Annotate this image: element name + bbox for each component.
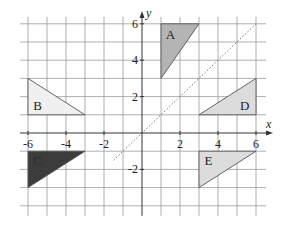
x-tick-label: 2 — [177, 137, 183, 151]
x-axis-label: x — [265, 117, 272, 131]
y-tick-label: -2 — [128, 162, 138, 176]
y-tick-label: 2 — [132, 90, 138, 104]
label-e: E — [205, 153, 213, 168]
y-axis-arrow-icon — [140, 11, 145, 18]
label-b: B — [33, 98, 42, 113]
coordinate-diagram: xy -6-4-2246642-2 ABCDE — [0, 0, 283, 228]
label-c: C — [33, 153, 42, 168]
label-a: A — [166, 27, 176, 42]
x-tick-label: -6 — [23, 137, 33, 151]
x-tick-label: 4 — [215, 137, 221, 151]
y-axis-label: y — [145, 6, 152, 20]
x-tick-label: -4 — [61, 137, 71, 151]
x-axis-arrow-icon — [266, 131, 273, 136]
x-tick-label: 6 — [253, 137, 259, 151]
y-tick-label: 4 — [132, 53, 138, 67]
y-tick-label: 6 — [132, 17, 138, 31]
coordinate-grid: xy -6-4-2246642-2 ABCDE — [0, 0, 283, 228]
grid-lines — [20, 17, 266, 216]
x-tick-label: -2 — [99, 137, 109, 151]
label-d: D — [240, 98, 249, 113]
